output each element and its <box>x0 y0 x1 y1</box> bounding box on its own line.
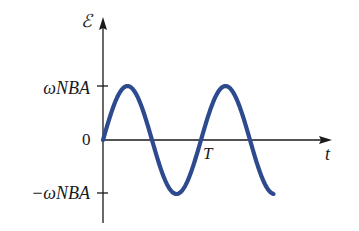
x-axis-label: t <box>325 145 330 163</box>
axes <box>97 25 324 223</box>
y-axis-label: ℰ <box>81 12 92 30</box>
y-tick-label-zero: 0 <box>82 131 91 148</box>
x-tick-label-period: T <box>203 145 212 162</box>
y-tick-label-min: −ωNBA <box>31 184 90 202</box>
y-tick-label-max: ωNBA <box>43 79 90 97</box>
